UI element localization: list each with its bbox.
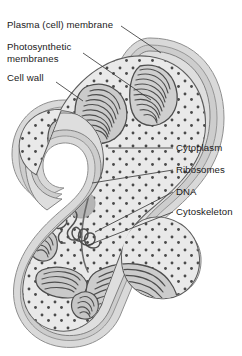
label-plasma-membrane: Plasma (cell) membrane [7, 19, 113, 31]
label-photosynthetic-membranes: Photosynthetic membranes [7, 41, 71, 64]
label-cytoplasm: Cytoplasm [176, 142, 222, 154]
label-dna-text: DNA [176, 186, 197, 198]
label-cytoskeleton-text: Cytoskeleton [176, 206, 233, 218]
label-cell-wall-text: Cell wall [7, 72, 44, 84]
label-plasma-membrane-text: Plasma (cell) membrane [7, 19, 113, 31]
label-dna: DNA [176, 186, 197, 198]
label-cytoskeleton: Cytoskeleton [176, 206, 233, 218]
label-photosynthetic-membranes-line2: membranes [7, 53, 71, 65]
label-ribosomes-text: Ribosomes [176, 164, 225, 176]
label-photosynthetic-membranes-line1: Photosynthetic [7, 41, 71, 53]
label-cytoplasm-text: Cytoplasm [176, 142, 222, 154]
label-ribosomes: Ribosomes [176, 164, 225, 176]
label-cell-wall: Cell wall [7, 72, 44, 84]
